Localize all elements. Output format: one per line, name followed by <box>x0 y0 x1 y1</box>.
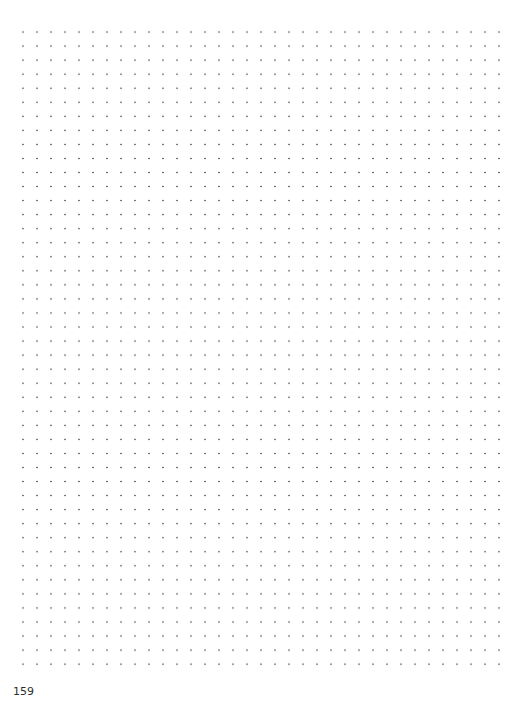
dot-grid <box>16 25 510 675</box>
page-number: 159 <box>13 685 34 699</box>
